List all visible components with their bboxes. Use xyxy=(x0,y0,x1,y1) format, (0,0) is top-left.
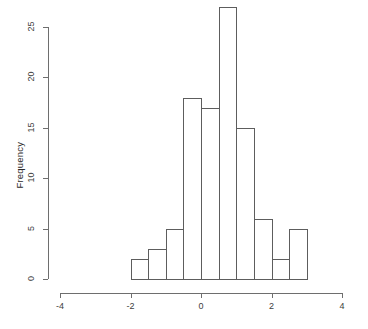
histogram-bar xyxy=(219,7,238,280)
x-axis-tick-label: -2 xyxy=(116,302,146,311)
y-axis-title: Frequency xyxy=(14,119,25,189)
y-axis-tick xyxy=(43,77,48,78)
y-axis-tick-label: 25 xyxy=(27,17,36,37)
y-axis-tick xyxy=(43,279,48,280)
histogram-bar xyxy=(201,108,220,280)
histogram-bar xyxy=(183,98,202,280)
x-axis-tick-label: -4 xyxy=(45,302,75,311)
x-axis-tick xyxy=(272,293,273,298)
y-axis-tick xyxy=(43,27,48,28)
y-axis-tick-label: 20 xyxy=(27,67,36,87)
histogram-plot: Frequency 0510152025 -4-2024 xyxy=(0,0,368,329)
y-axis-tick-label: 0 xyxy=(27,269,36,289)
y-axis-tick xyxy=(43,178,48,179)
x-axis-tick-label: 0 xyxy=(186,302,216,311)
histogram-bar xyxy=(289,229,308,280)
histogram-bar xyxy=(272,259,291,280)
y-axis-tick-label: 15 xyxy=(27,117,36,137)
y-axis-line xyxy=(48,27,49,279)
x-axis-tick xyxy=(342,293,343,298)
x-axis-tick xyxy=(60,293,61,298)
histogram-bar xyxy=(166,229,185,280)
y-axis-tick xyxy=(43,229,48,230)
histogram-bar xyxy=(131,259,150,280)
histogram-bar xyxy=(148,249,167,280)
x-axis-tick-label: 4 xyxy=(327,302,357,311)
histogram-bars xyxy=(0,0,368,329)
y-axis-tick-label: 5 xyxy=(27,218,36,238)
x-axis-tick xyxy=(131,293,132,298)
histogram-bar xyxy=(254,219,273,280)
histogram-bar xyxy=(236,128,255,280)
x-axis-tick xyxy=(201,293,202,298)
x-axis-tick-label: 2 xyxy=(257,302,287,311)
y-axis-tick-label: 10 xyxy=(27,168,36,188)
y-axis-tick xyxy=(43,128,48,129)
